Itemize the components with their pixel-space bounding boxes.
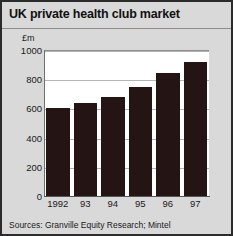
y-tick-label: 1000 (4, 45, 42, 56)
y-tick-label: 600 (4, 103, 42, 114)
x-tick-label: 95 (127, 198, 155, 209)
bar (74, 103, 98, 196)
x-axis-tick-labels: 19929394959697 (44, 198, 210, 213)
x-tick-label: 97 (182, 198, 210, 209)
y-tick-label: 800 (4, 74, 42, 85)
bar (101, 97, 125, 196)
bar-series (44, 50, 209, 196)
y-tick-label: 0 (4, 191, 42, 202)
x-axis-baseline (44, 196, 210, 197)
chart-figure: UK private health club market £m 1000800… (0, 0, 233, 236)
x-tick-label: 96 (154, 198, 182, 209)
bar (46, 108, 70, 196)
x-tick-label: 94 (99, 198, 127, 209)
source-note: Sources: Granville Equity Research; Mint… (9, 220, 171, 230)
bar (156, 73, 180, 196)
bar (129, 87, 153, 197)
y-tick-label: 400 (4, 132, 42, 143)
x-tick-label: 93 (72, 198, 100, 209)
page-title: UK private health club market (9, 7, 231, 21)
y-tick-label: 200 (4, 161, 42, 172)
x-tick-label: 1992 (44, 198, 72, 209)
y-axis-tick-labels: 10008006004002000 (2, 2, 42, 236)
bar (184, 62, 208, 196)
